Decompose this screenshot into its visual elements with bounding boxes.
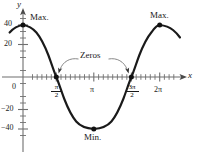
x-tick-label-pi: π	[90, 86, 94, 94]
x-tick-label-3pi-over-2: 3π 2	[125, 84, 139, 100]
y-tick-label-minus-40: −40	[1, 124, 14, 132]
point-zero-left	[54, 75, 59, 80]
point-max-left	[21, 23, 26, 28]
point-max-right	[157, 23, 162, 28]
annotation-max-right: Max.	[150, 11, 169, 20]
point-min	[91, 127, 96, 132]
x-tick-label-2pi: 2π	[154, 86, 162, 94]
zeros-arrow-right-line	[109, 59, 128, 70]
annotation-zeros: Zeros	[80, 51, 101, 60]
annotation-min: Min.	[84, 133, 101, 142]
x-tick-label-pi-over-2-denominator: 2	[51, 91, 62, 99]
x-tick-label-3pi-over-2-denominator: 2	[125, 91, 139, 99]
x-tick-label-3pi-over-2-numerator: 3π	[125, 84, 139, 91]
x-tick-label-pi-over-2: π 2	[51, 84, 62, 100]
x-axis-label: x	[188, 71, 192, 80]
y-axis-label: y	[17, 0, 21, 9]
trig-graph-figure	[0, 0, 197, 152]
y-tick-label-0: 0	[12, 83, 16, 91]
annotation-max-left: Max.	[30, 13, 49, 22]
zeros-arrow-left-line	[60, 59, 79, 70]
point-zero-right	[129, 75, 134, 80]
y-tick-label-minus-20: −20	[1, 105, 14, 113]
x-tick-label-pi-over-2-numerator: π	[51, 84, 62, 91]
y-tick-label-20: 20	[4, 40, 12, 48]
y-tick-label-40: 40	[4, 20, 12, 28]
